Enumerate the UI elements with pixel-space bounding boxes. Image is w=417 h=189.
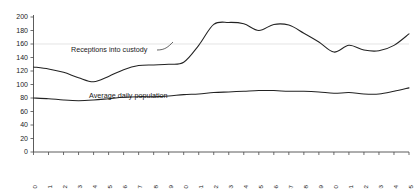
x-tick-label-1989: 1989 [317,184,324,189]
y-tick-label-100: 100 [16,81,28,88]
y-tick-label-20: 20 [20,135,28,142]
x-tick-label-1993: 1993 [377,184,384,189]
x-tick-label-1974: 1974 [91,184,98,189]
x-tick-label-1982: 1982 [212,184,219,189]
x-tick-label-1980: 1980 [182,184,189,189]
x-tick-label-1995: 1995 [407,184,414,189]
series-label-receptions: Receptions into custody [71,45,148,54]
y-tick-label-200: 200 [16,13,28,20]
y-tick-label-80: 80 [20,94,28,101]
y-tick-label-60: 60 [20,108,28,115]
y-tick-label-40: 40 [20,121,28,128]
series-label-receptions-leader [157,42,173,50]
x-tick-label-1975: 1975 [106,184,113,189]
y-tick-label-160: 160 [16,40,28,47]
x-tick-label-1985: 1985 [257,184,264,189]
x-tick-label-1976: 1976 [121,184,128,189]
chart-figure: 0204060801001201401601802001970197119721… [0,0,417,189]
x-tick-label-1972: 1972 [61,184,68,189]
x-tick-label-1986: 1986 [272,184,279,189]
x-tick-label-1984: 1984 [242,184,249,189]
x-tick-label-1981: 1981 [197,184,204,189]
x-tick-label-1979: 1979 [167,184,174,189]
y-tick-label-0: 0 [24,148,28,155]
x-tick-label-1983: 1983 [227,184,234,189]
x-tick-label-1988: 1988 [302,184,309,189]
x-tick-label-1971: 1971 [46,184,53,189]
x-tick-label-1987: 1987 [287,184,294,189]
x-tick-label-1970: 1970 [31,184,38,189]
x-tick-label-1990: 1990 [332,184,339,189]
y-tick-label-180: 180 [16,27,28,34]
x-tick-label-1994: 1994 [392,184,399,189]
line-chart: 0204060801001201401601802001970197119721… [0,0,417,189]
x-tick-label-1978: 1978 [152,184,159,189]
y-tick-label-120: 120 [16,67,28,74]
y-tick-label-140: 140 [16,54,28,61]
x-tick-label-1977: 1977 [136,184,143,189]
series-label-population: Average daily population [89,91,168,100]
x-tick-label-1973: 1973 [76,184,83,189]
x-tick-label-1992: 1992 [362,184,369,189]
x-tick-label-1991: 1991 [347,184,354,189]
